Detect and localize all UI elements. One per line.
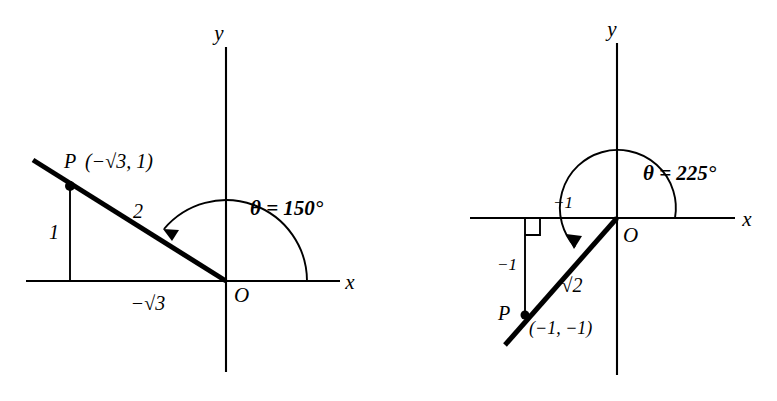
origin-label: O bbox=[234, 283, 249, 307]
horizontal-leg-label: −1 bbox=[553, 193, 573, 212]
angle-225-diagram: y x O P (−1, −1) √2 −1 −1 θ = 225° bbox=[390, 0, 777, 401]
radius-length-label: 2 bbox=[133, 200, 143, 222]
point-p-label: P bbox=[497, 302, 510, 324]
point-p-coordinates: (−1, −1) bbox=[529, 318, 592, 339]
angle-150-diagram: y x O P (−√3, 1) 2 1 −√3 θ = 150° bbox=[0, 0, 390, 401]
theta-label: θ = 225° bbox=[643, 161, 717, 185]
radius-length-label: √2 bbox=[562, 274, 583, 296]
angle-arc-arrowhead bbox=[566, 234, 582, 249]
right-angle-marker bbox=[525, 218, 540, 235]
diagram-page: y x O P (−√3, 1) 2 1 −√3 θ = 150° bbox=[0, 0, 777, 401]
point-p-coordinates: (−√3, 1) bbox=[85, 150, 153, 173]
origin-label: O bbox=[623, 223, 638, 247]
theta-label: θ = 150° bbox=[250, 196, 324, 220]
horizontal-leg-label: −√3 bbox=[131, 292, 165, 314]
angle-225-canvas: y x O P (−1, −1) √2 −1 −1 θ = 225° bbox=[390, 0, 777, 401]
angle-arc-arrowhead bbox=[163, 229, 179, 241]
point-p-marker bbox=[65, 181, 75, 191]
x-axis-label: x bbox=[741, 207, 752, 231]
y-axis-label: y bbox=[605, 17, 617, 41]
vertical-leg-label: −1 bbox=[497, 255, 517, 274]
terminal-ray bbox=[33, 160, 226, 281]
vertical-leg-label: 1 bbox=[49, 221, 59, 243]
x-axis-label: x bbox=[344, 270, 355, 294]
point-p-label: P bbox=[63, 150, 76, 172]
y-axis-label: y bbox=[212, 21, 224, 45]
angle-150-canvas: y x O P (−√3, 1) 2 1 −√3 θ = 150° bbox=[0, 0, 390, 401]
